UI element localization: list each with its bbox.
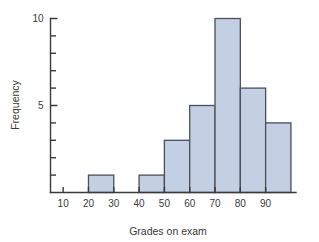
histogram-bar bbox=[240, 88, 265, 192]
histogram-bar bbox=[88, 175, 113, 192]
x-axis-tick-label: 30 bbox=[108, 198, 120, 209]
histogram-plot: 102030405060708090510 Grades on exam Fre… bbox=[0, 0, 319, 242]
y-axis-tick-label: 5 bbox=[38, 100, 44, 111]
histogram-bar bbox=[190, 106, 215, 193]
x-axis-tick-label: 80 bbox=[235, 198, 247, 209]
x-axis-tick-label: 70 bbox=[209, 198, 221, 209]
x-axis-tick-label: 60 bbox=[184, 198, 196, 209]
histogram-bar bbox=[164, 140, 189, 192]
y-axis-title: Frequency bbox=[9, 79, 21, 129]
bars-group bbox=[88, 19, 290, 193]
histogram-bar bbox=[266, 123, 291, 193]
x-axis-tick-label: 40 bbox=[134, 198, 146, 209]
histogram-bar bbox=[215, 19, 240, 193]
x-axis-title: Grades on exam bbox=[129, 225, 207, 237]
histogram-bar bbox=[139, 175, 164, 192]
y-axis-tick-label: 10 bbox=[32, 13, 44, 24]
x-axis-tick-label: 10 bbox=[58, 198, 70, 209]
histogram-figure: 102030405060708090510 Grades on exam Fre… bbox=[0, 0, 319, 242]
x-axis-tick-label: 20 bbox=[83, 198, 95, 209]
x-axis-tick-label: 90 bbox=[260, 198, 272, 209]
x-axis-tick-label: 50 bbox=[159, 198, 171, 209]
